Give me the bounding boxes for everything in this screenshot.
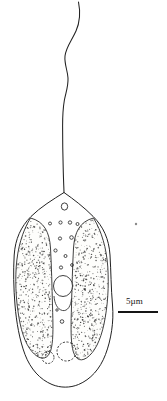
scale-bar-label: 5µm (126, 297, 143, 306)
scale-bar-rule (118, 311, 158, 313)
figure-canvas: 5µm (0, 0, 167, 401)
flagellum (63, 2, 80, 193)
nucleus (54, 276, 73, 297)
cell-diagram (0, 0, 167, 401)
stray-speck (135, 223, 137, 225)
